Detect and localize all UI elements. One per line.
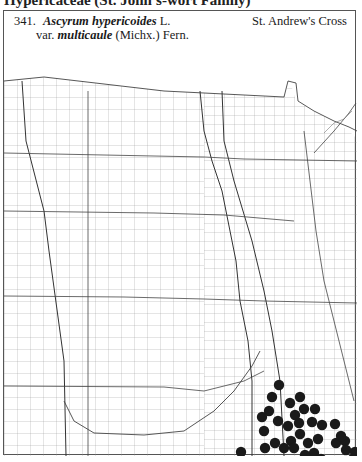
occurrence-dot bbox=[299, 404, 309, 414]
occurrence-dot bbox=[317, 420, 327, 430]
occurrence-dot bbox=[341, 445, 351, 455]
occurrence-dot bbox=[283, 421, 293, 431]
species-number: 341. bbox=[14, 14, 36, 28]
occurrence-dot bbox=[259, 426, 269, 436]
occurrence-dot bbox=[257, 412, 267, 422]
species-genus: Ascyrum bbox=[43, 14, 89, 28]
variety-prefix: var. bbox=[36, 28, 54, 42]
distribution-map bbox=[4, 61, 357, 456]
variety-author: (Michx.) Fern. bbox=[116, 28, 189, 42]
species-caption: 341. Ascyrum hypericoides L. var. multic… bbox=[14, 14, 189, 42]
occurrence-dot bbox=[310, 404, 320, 414]
common-name: St. Andrew's Cross bbox=[252, 14, 347, 29]
occurrence-dot bbox=[307, 417, 317, 427]
caption-line-2: var. multicaule (Michx.) Fern. bbox=[14, 28, 189, 42]
occurrence-dot bbox=[270, 438, 280, 448]
occurrence-dot bbox=[267, 392, 277, 402]
occurrence-dot bbox=[295, 429, 305, 439]
occurrence-dot bbox=[295, 392, 305, 402]
occurrence-dot bbox=[330, 419, 340, 429]
occurrence-dot bbox=[303, 438, 313, 448]
species-author: L. bbox=[160, 14, 171, 28]
occurrence-dot bbox=[285, 398, 295, 408]
occurrence-dot bbox=[273, 416, 283, 426]
caption-line-1: 341. Ascyrum hypericoides L. bbox=[14, 14, 189, 28]
occurrence-dot bbox=[313, 434, 323, 444]
occurrence-dot bbox=[274, 380, 284, 390]
map-frame: 341. Ascyrum hypericoides L. var. multic… bbox=[3, 10, 356, 455]
occurrence-dot bbox=[289, 443, 299, 453]
occurrence-dot bbox=[336, 431, 346, 441]
occurrence-dot bbox=[294, 418, 304, 428]
species-epithet: hypericoides bbox=[92, 14, 157, 28]
occurrence-dot bbox=[260, 443, 270, 453]
variety-name: multicaule bbox=[58, 28, 113, 42]
page-header: Hypericaceae (St. John's-wort Family) bbox=[4, 0, 251, 9]
occurrence-dot bbox=[279, 443, 289, 453]
